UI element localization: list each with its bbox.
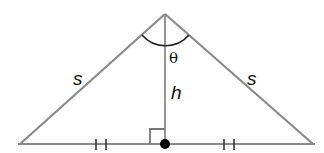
right-side-s bbox=[165, 14, 313, 144]
left-side-label: s bbox=[73, 68, 83, 89]
altitude-label: h bbox=[171, 82, 182, 103]
right-side-label: s bbox=[247, 68, 257, 89]
triangle-diagram: s s h θ bbox=[0, 0, 324, 153]
left-side-s bbox=[20, 14, 165, 144]
altitude-foot-dot bbox=[160, 139, 170, 149]
apex-angle-label: θ bbox=[169, 49, 178, 67]
